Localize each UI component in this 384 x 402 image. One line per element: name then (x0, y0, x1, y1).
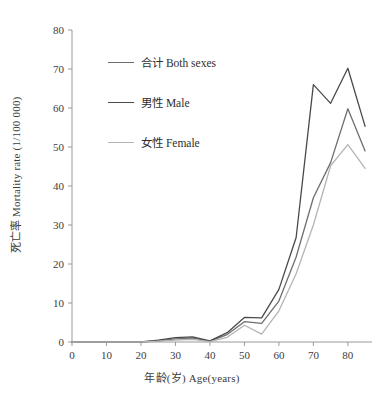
svg-text:40: 40 (204, 349, 216, 361)
chart-container: 死亡率 Mortality rate (1/100 000) 010203040… (0, 0, 384, 402)
svg-text:80: 80 (53, 24, 65, 36)
legend-item-female: 女性 Female (108, 122, 288, 162)
svg-text:20: 20 (135, 349, 147, 361)
svg-text:0: 0 (59, 336, 65, 348)
svg-text:50: 50 (53, 141, 65, 153)
svg-text:0: 0 (69, 349, 75, 361)
legend-swatch-both-sexes (108, 62, 134, 63)
legend-label-both-sexes: 合计 Both sexes (141, 54, 216, 70)
legend: 合计 Both sexes 男性 Male 女性 Female (108, 42, 288, 162)
svg-text:20: 20 (53, 258, 65, 270)
svg-text:10: 10 (101, 349, 113, 361)
legend-swatch-male (108, 102, 134, 103)
legend-item-male: 男性 Male (108, 82, 288, 122)
y-axis-ticks: 01020304050607080 (53, 24, 72, 348)
svg-text:40: 40 (53, 180, 65, 192)
svg-text:30: 30 (53, 219, 65, 231)
svg-text:60: 60 (273, 349, 285, 361)
svg-text:30: 30 (170, 349, 182, 361)
svg-text:10: 10 (53, 297, 65, 309)
svg-text:80: 80 (342, 349, 354, 361)
x-axis-title: 年龄(岁) Age(years) (144, 372, 239, 384)
x-axis-title-container: 年龄(岁) Age(years) (0, 368, 384, 386)
svg-text:70: 70 (308, 349, 320, 361)
x-axis-ticks: 01020304050607080 (69, 342, 354, 361)
legend-swatch-female (108, 142, 134, 143)
series-line-2 (72, 145, 365, 342)
svg-text:60: 60 (53, 102, 65, 114)
legend-item-both-sexes: 合计 Both sexes (108, 42, 288, 82)
legend-label-male: 男性 Male (141, 94, 190, 110)
legend-label-female: 女性 Female (141, 134, 200, 150)
svg-text:50: 50 (239, 349, 251, 361)
svg-text:70: 70 (53, 63, 65, 75)
